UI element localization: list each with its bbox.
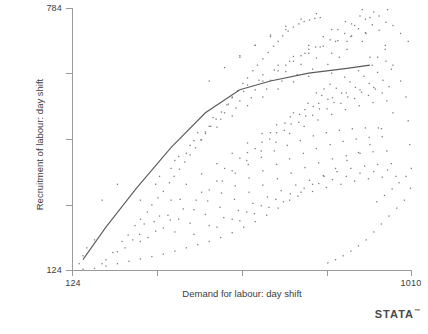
scatter-point (308, 45, 309, 46)
scatter-point (332, 97, 333, 98)
scatter-point (326, 187, 327, 188)
scatter-point (372, 102, 373, 103)
scatter-point (361, 92, 362, 93)
scatter-point (378, 127, 379, 128)
scatter-point (289, 61, 290, 62)
scatter-point (308, 53, 309, 54)
scatter-point (261, 142, 262, 143)
scatter-point (337, 29, 338, 30)
scatter-point (376, 201, 377, 202)
scatter-point (346, 155, 347, 156)
scatter-point (330, 39, 331, 40)
scatter-point (392, 25, 393, 26)
scatter-point (273, 46, 274, 47)
scatter-point (174, 250, 175, 251)
scatter-point (266, 88, 267, 89)
scatter-point (112, 252, 113, 253)
scatter-point (216, 180, 217, 181)
scatter-point (255, 45, 256, 46)
scatter-point (258, 80, 259, 81)
scatter-point (232, 219, 233, 220)
scatter-point (385, 61, 386, 62)
scatter-point (385, 45, 386, 46)
scatter-point (247, 142, 248, 143)
scatter-point (330, 84, 331, 85)
scatter-point (277, 41, 278, 42)
scatter-point (364, 165, 365, 166)
scatter-point (369, 57, 370, 58)
scatter-point (369, 144, 370, 145)
scatter-point (382, 92, 383, 93)
scatter-point (305, 115, 306, 116)
scatter-point (186, 247, 187, 248)
scatter-point (277, 88, 278, 89)
scatter-point (307, 103, 308, 104)
scatter-point (242, 83, 243, 84)
scatter-point (193, 209, 194, 210)
scatter-point (193, 234, 194, 235)
scatter-point (117, 263, 118, 264)
scatter-point (304, 109, 305, 110)
scatter-point (323, 88, 324, 89)
scatter-point (316, 13, 317, 14)
scatter-point (224, 67, 225, 68)
scatter-point (396, 207, 397, 208)
x-axis-tick (327, 270, 328, 276)
scatter-point (275, 199, 276, 200)
scatter-point (408, 120, 409, 121)
scatter-point (223, 217, 224, 218)
scatter-point (281, 80, 282, 81)
scatter-point (186, 153, 187, 154)
scatter-point (270, 132, 271, 133)
scatter-point (285, 26, 286, 27)
scatter-point (327, 99, 328, 100)
scatter-point (344, 76, 345, 77)
x-axis-tick (157, 270, 158, 276)
scatter-point (262, 80, 263, 81)
scatter-point (300, 192, 301, 193)
scatter-point (351, 23, 352, 24)
scatter-point (330, 144, 331, 145)
scatter-point (163, 191, 164, 192)
scatter-point (359, 15, 360, 16)
scatter-point (261, 157, 262, 158)
scatter-point (323, 36, 324, 37)
scatter-point (173, 176, 174, 177)
stata-logo-text: STATA (375, 308, 414, 320)
scatter-point (157, 197, 158, 198)
scatter-point (178, 219, 179, 220)
y-axis-tick (66, 73, 72, 74)
scatter-point (140, 200, 141, 201)
scatter-point (180, 199, 181, 200)
scatter-point (174, 231, 175, 232)
fitted-line-group (83, 65, 370, 260)
scatter-point (255, 221, 256, 222)
scatter-point (94, 268, 95, 269)
scatter-point (228, 103, 229, 104)
scatter-point (178, 156, 179, 157)
scatter-point (248, 192, 249, 193)
scatter-point (337, 40, 338, 41)
scatter-point (195, 147, 196, 148)
scatter-point (373, 11, 374, 12)
scatter-point (365, 33, 366, 34)
scatter-point (105, 265, 106, 266)
scatter-point (197, 132, 198, 133)
scatter-point (391, 69, 392, 70)
scatter-point (277, 70, 278, 71)
y-axis-tick (66, 205, 72, 206)
scatter-point (359, 173, 360, 174)
scatter-point (295, 184, 296, 185)
scatter-point (257, 65, 258, 66)
scatter-point (318, 103, 319, 104)
scatter-point (358, 70, 359, 71)
scatter-point (339, 130, 340, 131)
scatter-point (128, 261, 129, 262)
scatter-point (369, 17, 370, 18)
scatter-point (400, 33, 401, 34)
scatter-point (377, 164, 378, 165)
scatter-point (346, 92, 347, 93)
scatter-point (365, 239, 366, 240)
scatter-point (174, 160, 175, 161)
scatter-point (300, 140, 301, 141)
